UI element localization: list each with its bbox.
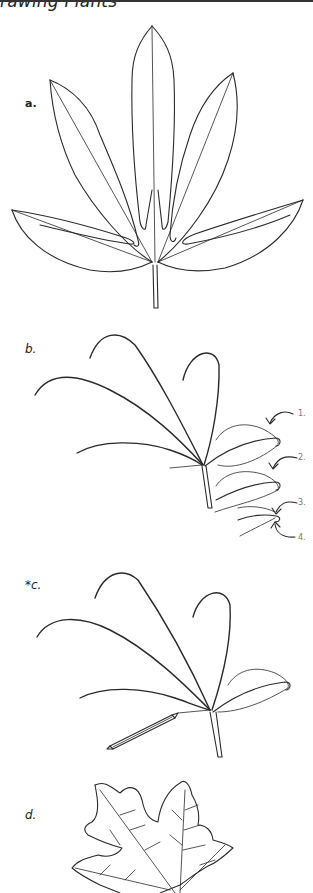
figure-b-gesture-lines [35, 335, 297, 537]
figure-a-label: a. [25, 97, 37, 110]
figure-c-gesture-with-pencil [37, 573, 290, 757]
figure-a-palmate-leaf [12, 26, 303, 308]
callout-3: 3. [298, 498, 306, 507]
callout-2: 2. [298, 453, 306, 462]
callout-4: 4. [298, 533, 306, 542]
figure-c-label: *c. [25, 578, 41, 592]
illustrations [0, 0, 313, 893]
callout-1: 1. [298, 409, 306, 418]
figure-d-maple-leaf [72, 781, 233, 893]
figure-d-label: d. [25, 808, 36, 822]
figure-b-label: b. [25, 342, 36, 356]
